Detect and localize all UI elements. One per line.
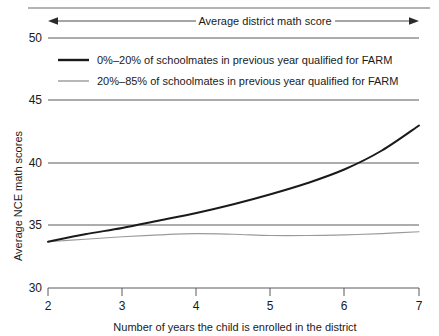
x-tick-label-2: 2 — [45, 299, 52, 313]
y-tick-label-40: 40 — [29, 156, 43, 170]
x-axis-title: Number of years the child is enrolled in… — [113, 321, 356, 333]
y-tick-labels: 50 45 40 35 30 — [29, 31, 43, 295]
x-tick-label-7: 7 — [416, 299, 423, 313]
x-tick-label-5: 5 — [267, 299, 274, 313]
average-district-math-score-annotation: Average district math score — [48, 15, 419, 27]
series-line-0-20-farm — [48, 126, 419, 242]
legend-label-1: 20%–85% of schoolmates in previous year … — [97, 75, 398, 87]
series-line-20-85-farm — [48, 232, 419, 242]
arrow-left-head-icon — [48, 17, 58, 25]
x-tick-label-4: 4 — [193, 299, 200, 313]
y-tick-label-45: 45 — [29, 93, 43, 107]
line-chart: Average district math score 50 45 40 35 … — [0, 0, 439, 336]
x-tick-label-6: 6 — [341, 299, 348, 313]
legend-label-0: 0%–20% of schoolmates in previous year q… — [97, 54, 392, 66]
annotation-label: Average district math score — [198, 15, 331, 27]
y-tick-label-35: 35 — [29, 218, 43, 232]
x-ticks — [48, 288, 419, 296]
y-axis-title: Average NCE math scores — [12, 130, 24, 261]
chart-figure: Average district math score 50 45 40 35 … — [0, 0, 439, 336]
x-tick-label-3: 3 — [119, 299, 126, 313]
x-tick-labels: 2 3 4 5 6 7 — [45, 299, 423, 313]
legend: 0%–20% of schoolmates in previous year q… — [58, 54, 398, 87]
y-tick-label-50: 50 — [29, 31, 43, 45]
arrow-right-head-icon — [409, 17, 419, 25]
y-tick-label-30: 30 — [29, 281, 43, 295]
